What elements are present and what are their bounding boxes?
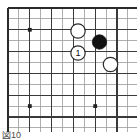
go-board[interactable]: 1 xyxy=(0,0,137,132)
white-stone-disc xyxy=(103,57,117,71)
black-stone-disc xyxy=(92,35,106,49)
stone-move-number: 1 xyxy=(75,48,80,58)
white-stone-disc xyxy=(71,24,85,38)
white-stone[interactable] xyxy=(71,24,85,38)
white-stone[interactable] xyxy=(103,57,117,71)
go-diagram-figure: 1 図10 xyxy=(0,0,137,140)
black-stone[interactable] xyxy=(92,35,106,49)
star-point xyxy=(28,104,32,108)
star-point xyxy=(28,28,32,32)
figure-caption: 図10 xyxy=(2,131,62,140)
go-board-canvas[interactable]: 1 xyxy=(0,0,137,132)
white-stone[interactable]: 1 xyxy=(71,46,85,60)
star-point xyxy=(93,104,97,108)
